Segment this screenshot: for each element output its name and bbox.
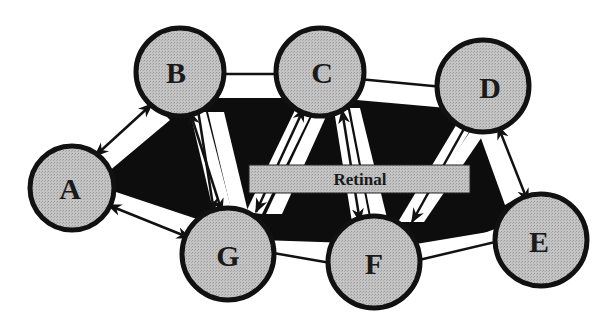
node-F: F [328, 216, 420, 308]
node-D: D [437, 40, 529, 132]
svg-text:F: F [365, 247, 383, 280]
network-diagram: Retinal A B C D E F G [0, 0, 616, 335]
svg-text:B: B [166, 56, 186, 89]
retinal-bar: Retinal [249, 165, 470, 193]
svg-text:G: G [216, 239, 239, 272]
node-C: C [276, 28, 364, 116]
retinal-label: Retinal [334, 170, 387, 189]
svg-text:A: A [59, 172, 81, 205]
node-A: A [30, 146, 114, 230]
node-B: B [136, 28, 224, 116]
svg-text:D: D [479, 71, 501, 104]
svg-text:E: E [529, 225, 549, 258]
node-E: E [495, 194, 587, 286]
svg-text:C: C [311, 56, 333, 89]
node-G: G [182, 208, 274, 300]
